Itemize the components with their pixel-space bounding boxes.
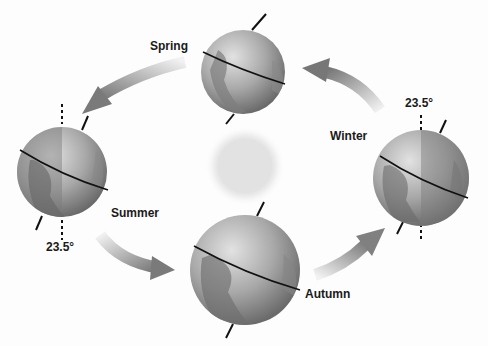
earth-autumn-icon [190, 202, 300, 338]
label-tilt-winter: 23.5° [405, 96, 433, 110]
arrow-autumn-to-winter-icon [315, 228, 385, 275]
arrow-winter-to-spring-icon [302, 58, 380, 110]
earth-summer-icon [17, 104, 108, 240]
earth-winter-icon [373, 115, 469, 240]
arrow-spring-to-summer-icon [82, 62, 185, 114]
label-spring: Spring [150, 39, 188, 53]
seasons-diagram: Spring Summer Autumn Winter 23.5° 23.5° [0, 0, 488, 346]
label-tilt-summer: 23.5° [46, 240, 74, 254]
diagram-graphics [0, 0, 488, 346]
sun-icon [205, 126, 285, 206]
earth-spring-icon [201, 14, 285, 124]
label-autumn: Autumn [305, 287, 350, 301]
label-winter: Winter [330, 129, 367, 143]
arrow-summer-to-autumn-icon [100, 235, 175, 280]
label-summer: Summer [111, 206, 159, 220]
